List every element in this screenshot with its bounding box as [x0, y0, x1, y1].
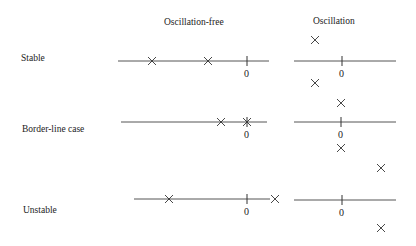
origin-label: 0: [339, 68, 344, 79]
origin-label: 0: [244, 206, 249, 217]
origin-label: 0: [339, 207, 344, 218]
borderline-oscillation-plot: 0: [294, 99, 396, 152]
pole-x-icon: [311, 36, 319, 44]
stable-oscillation-plot: 0: [294, 36, 396, 87]
borderline-oscillation-free-plot: 0: [121, 117, 267, 140]
origin-label: 0: [338, 129, 343, 140]
pole-x-icon: [271, 195, 279, 203]
origin-label: 0: [244, 68, 249, 79]
unstable-oscillation-free-plot: 0: [134, 194, 279, 217]
stable-oscillation-free-plot: 0: [118, 56, 269, 79]
pole-x-icon: [311, 79, 319, 87]
pole-x-icon: [377, 224, 385, 232]
pole-x-icon: [377, 164, 385, 172]
pole-diagram: 0 0 0 0 0 0: [0, 0, 416, 246]
pole-x-icon: [337, 99, 345, 107]
pole-x-icon: [337, 144, 345, 152]
origin-label: 0: [244, 129, 249, 140]
unstable-oscillation-plot: 0: [294, 164, 396, 232]
